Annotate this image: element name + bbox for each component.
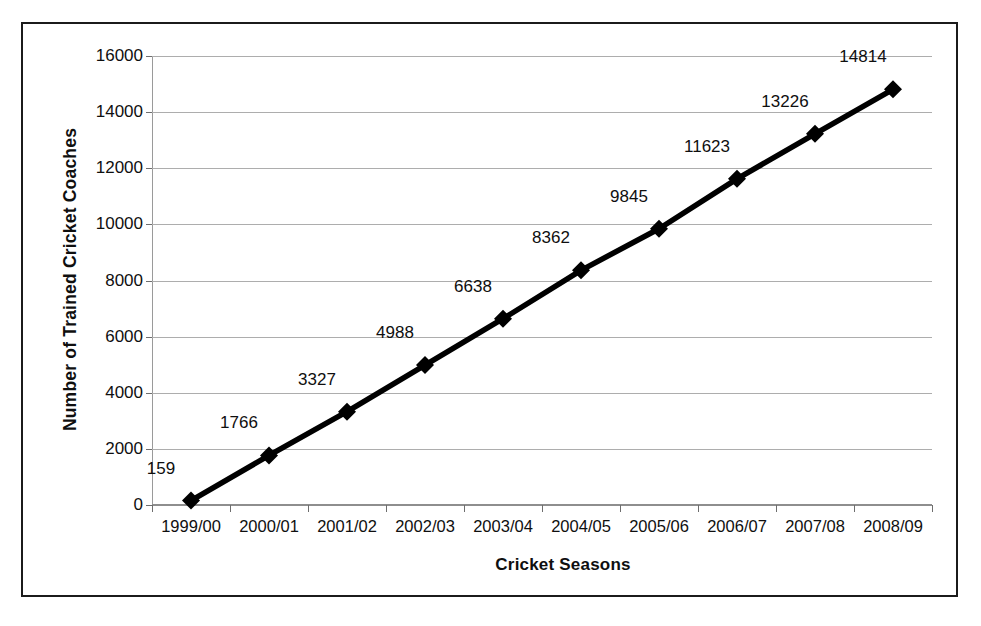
x-tick-label: 2000/01 <box>239 517 299 536</box>
data-point-label: 8362 <box>532 228 570 248</box>
x-tick-label: 2001/02 <box>317 517 377 536</box>
series-line-chart <box>152 56 932 505</box>
y-tick-label: 0 <box>134 495 143 515</box>
x-tick-label: 2008/09 <box>863 517 923 536</box>
y-tick-label: 14000 <box>96 102 143 122</box>
x-tick-mark <box>854 505 855 512</box>
y-tick-label: 6000 <box>105 327 143 347</box>
x-tick-mark <box>776 505 777 512</box>
data-point-label: 11623 <box>684 137 730 157</box>
series-line <box>191 89 893 500</box>
data-point-label: 13226 <box>761 92 808 112</box>
y-tick-label: 12000 <box>96 158 143 178</box>
data-point-label: 14814 <box>839 47 886 67</box>
x-tick-mark <box>620 505 621 512</box>
y-tick-label: 2000 <box>105 439 143 459</box>
x-tick-mark <box>386 505 387 512</box>
x-tick-mark <box>698 505 699 512</box>
page-canvas: Number of Trained Cricket Coaches Cricke… <box>0 0 981 626</box>
x-tick-mark <box>932 505 933 512</box>
x-tick-mark <box>308 505 309 512</box>
x-tick-label: 2002/03 <box>395 517 455 536</box>
x-tick-label: 2006/07 <box>707 517 767 536</box>
y-tick-label: 8000 <box>105 271 143 291</box>
x-tick-label: 1999/00 <box>161 517 221 536</box>
x-tick-label: 2005/06 <box>629 517 689 536</box>
data-point-label: 1766 <box>220 413 258 433</box>
y-tick-label: 10000 <box>96 214 143 234</box>
data-point-label: 3327 <box>298 370 336 390</box>
y-tick-label: 4000 <box>105 383 143 403</box>
data-point-label: 6638 <box>454 277 492 297</box>
x-axis-title: Cricket Seasons <box>173 555 953 575</box>
x-tick-mark <box>464 505 465 512</box>
x-tick-label: 2007/08 <box>785 517 845 536</box>
x-tick-mark <box>542 505 543 512</box>
x-tick-label: 2003/04 <box>473 517 533 536</box>
x-tick-label: 2004/05 <box>551 517 611 536</box>
data-point-label: 4988 <box>376 323 414 343</box>
y-axis-title: Number of Trained Cricket Coaches <box>60 70 81 490</box>
x-tick-mark <box>230 505 231 512</box>
data-point-label: 159 <box>147 459 175 479</box>
plot-area: 0200040006000800010000120001400016000 19… <box>152 56 932 505</box>
x-tick-mark <box>152 505 153 512</box>
chart-frame: Number of Trained Cricket Coaches Cricke… <box>21 22 958 597</box>
data-point-label: 9845 <box>610 187 648 207</box>
y-tick-label: 16000 <box>96 46 143 66</box>
